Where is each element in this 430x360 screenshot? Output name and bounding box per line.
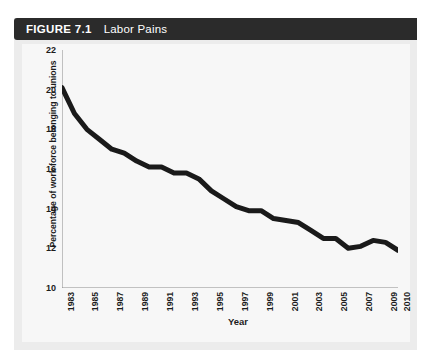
x-axis-tick-label: 1985 (90, 292, 100, 311)
x-axis-tick-label: 1983 (66, 292, 76, 311)
x-axis-title: Year (22, 316, 410, 327)
x-axis-tick-label: 1991 (165, 292, 175, 311)
x-axis-tick-label: 2010 (402, 292, 412, 311)
line-chart-svg (62, 50, 398, 288)
y-axis-tick-label: 18 (26, 124, 56, 134)
x-axis-title-text: Year (228, 316, 248, 327)
x-axis-tick-label: 2001 (290, 292, 300, 311)
figure-title-text: Labor Pains (104, 23, 168, 35)
x-axis-tick-label: 2003 (314, 292, 324, 311)
y-axis-tick-label: 10 (26, 283, 56, 293)
y-axis-tick-label: 20 (26, 85, 56, 95)
y-axis-tick-label: 14 (26, 204, 56, 214)
y-axis-tick-label: 12 (26, 243, 56, 253)
y-axis-tick-labels: 10121416182022 (22, 50, 56, 288)
x-axis-tick-label: 1993 (190, 292, 200, 311)
figure-number-label: FIGURE 7.1 (26, 23, 92, 35)
chart-box: Percentage of work force belonging to un… (22, 44, 410, 342)
plot-area (62, 50, 398, 288)
x-axis-tick-label: 2005 (339, 292, 349, 311)
union-membership-line (62, 88, 398, 251)
axis-lines (62, 50, 398, 288)
x-axis-tick-label: 1995 (215, 292, 225, 311)
figure-title-bar: FIGURE 7.1 Labor Pains (14, 18, 417, 40)
x-axis-tick-label: 1989 (140, 292, 150, 311)
x-axis-tick-label: 1987 (115, 292, 125, 311)
figure-container: FIGURE 7.1 Labor Pains Percentage of wor… (0, 0, 430, 360)
x-axis-tick-label: 1999 (265, 292, 275, 311)
x-axis-tick-label: 2009 (389, 292, 399, 311)
x-axis-tick-label: 1997 (240, 292, 250, 311)
x-axis-tick-label: 2007 (364, 292, 374, 311)
y-axis-tick-label: 22 (26, 45, 56, 55)
y-axis-tick-label: 16 (26, 164, 56, 174)
